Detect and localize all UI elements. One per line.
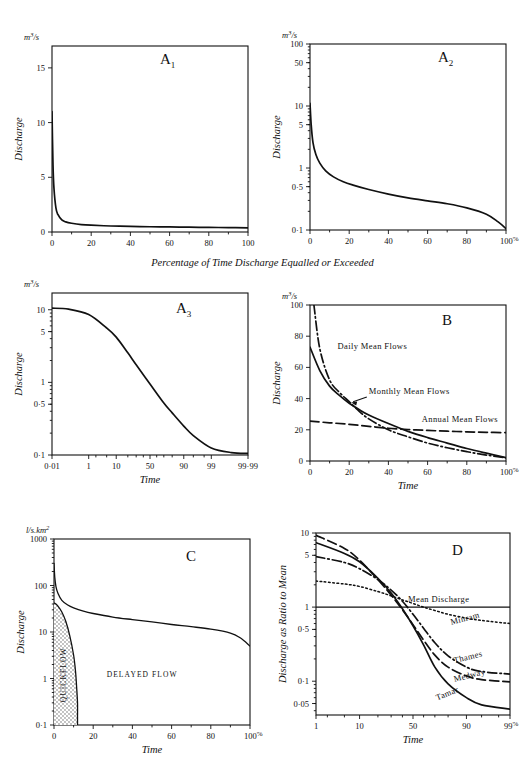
y-tick-label: 0·5 [298, 624, 309, 634]
y-tick-label: 50 [295, 58, 304, 68]
annotation-minram: Minram [449, 610, 480, 627]
monthly-mean-pointer [353, 397, 367, 402]
y-tick-label: 5 [299, 120, 303, 130]
y-tick-label: 0·05 [293, 699, 309, 709]
y-tick-label: 1000 [30, 534, 47, 544]
curve-tamar [316, 543, 510, 709]
y-axis-title: Discharge [271, 361, 282, 406]
panel-identifier: A3 [176, 300, 192, 319]
axis-units: m3/s [24, 31, 40, 43]
y-tick-label: 0·1 [34, 450, 45, 460]
panel-identifier: C [186, 548, 196, 564]
y-axis-title: Discharge [15, 610, 26, 655]
panel-a2: 0·10·5151050100020406080100%m3/sDischarg… [262, 22, 524, 272]
x-tick-label: 100 [242, 238, 255, 248]
y-axis-title: Discharge [271, 115, 282, 160]
plot-frame [310, 44, 506, 230]
x-tick-label: 1 [314, 721, 318, 731]
curve-flow-duration [52, 112, 248, 228]
plot-frame [52, 46, 248, 232]
panel-identifier: A2 [438, 49, 453, 68]
mean-discharge-label: Mean Discharge [408, 594, 469, 604]
shared-caption-text: Percentage of Time Discharge Equalled or… [151, 257, 374, 268]
y-tick-label: 100 [290, 300, 303, 310]
axis-units: m3/s [24, 278, 40, 290]
x-tick-label: 60 [167, 731, 176, 741]
y-tick-label: 10 [301, 528, 310, 538]
x-tick-label: 20 [345, 236, 354, 246]
y-tick-label: 0·1 [292, 225, 303, 235]
chart-a2: 0·10·5151050100020406080100%m3/sDischarg… [262, 22, 524, 272]
x-tick-label: 100% [244, 730, 263, 741]
y-tick-label: 10 [295, 101, 304, 111]
y-axis-title: Discharge [13, 117, 24, 162]
x-tick-label: 60 [165, 238, 174, 248]
plot-frame [52, 293, 248, 455]
x-axis-title: Time [140, 474, 161, 485]
panel-identifier: A1 [160, 51, 175, 70]
y-tick-label: 10 [37, 118, 46, 128]
x-tick-label: 50 [409, 721, 418, 731]
x-tick-label: 90 [462, 721, 471, 731]
x-tick-label: 1 [87, 461, 91, 471]
x-tick-label: 40 [384, 236, 393, 246]
x-tick-label: 80 [463, 236, 472, 246]
x-axis-title: Time [142, 744, 163, 755]
y-tick-label: 5 [41, 327, 45, 337]
plot-frame [54, 539, 250, 725]
x-tick-label: 20 [345, 467, 354, 477]
y-tick-label: 0·1 [298, 676, 309, 686]
curve-medway [316, 535, 510, 682]
x-tick-label: 60 [423, 236, 432, 246]
y-tick-label: 0·5 [292, 182, 303, 192]
y-tick-label: 1 [299, 163, 303, 173]
x-tick-label: 100% [500, 235, 519, 246]
y-tick-label: 20 [295, 425, 304, 435]
x-tick-label: 99 [207, 461, 216, 471]
x-tick-label: 40 [384, 467, 393, 477]
chart-d: 0·050·10·51510110509099%Discharge as Rat… [262, 505, 524, 767]
x-tick-label: 100% [500, 466, 519, 477]
shared-x-caption: Percentage of Time Discharge Equalled or… [0, 252, 525, 270]
figure-flow-duration-curves: 051015020406080100m3/sDischargeA1 0·10·5… [0, 0, 525, 777]
y-tick-label: 15 [37, 63, 46, 73]
x-tick-label: 40 [126, 238, 135, 248]
y-tick-label: 5 [41, 172, 45, 182]
x-tick-label: 10 [112, 461, 121, 471]
annotation-monthly-mean-flows: Monthly Mean Flows [369, 386, 450, 396]
x-tick-label: 80 [205, 238, 214, 248]
y-tick-label: 5 [305, 550, 309, 560]
chart-a1: 051015020406080100m3/sDischargeA1 [0, 22, 262, 272]
y-tick-label: 40 [295, 394, 304, 404]
x-tick-label: 10 [355, 721, 364, 731]
x-tick-label: 0 [308, 236, 312, 246]
x-tick-label: 0 [308, 467, 312, 477]
x-axis-title: Time [398, 480, 419, 491]
x-tick-label: 20 [87, 238, 96, 248]
panel-a3: 0·10·515100·0111050909999·99m3/sDischarg… [0, 283, 262, 495]
region-label-delayed-flow: DELAYED FLOW [107, 670, 178, 679]
y-axis-title: Discharge [13, 352, 24, 397]
curve-total-flow [54, 563, 250, 646]
plot-frame [310, 305, 506, 461]
panel-c: 0·11101001000020406080100%l/s.km2Dischar… [0, 505, 262, 767]
annotation-thames: Thames [453, 648, 484, 665]
y-tick-label: 80 [295, 331, 304, 341]
x-tick-label: 0 [50, 238, 54, 248]
y-tick-label: 0·1 [36, 720, 47, 730]
y-tick-label: 1 [43, 674, 47, 684]
annotation-annual-mean-flows: Annual Mean Flows [422, 414, 498, 424]
y-tick-label: 10 [39, 627, 48, 637]
x-tick-label: 99·99 [238, 461, 258, 471]
chart-a3: 0·10·515100·0111050909999·99m3/sDischarg… [0, 283, 262, 495]
y-tick-label: 0 [41, 227, 45, 237]
x-tick-label: 40 [128, 731, 137, 741]
y-tick-label: 1 [305, 602, 309, 612]
x-tick-label: 80 [463, 467, 472, 477]
chart-b: 020406080100020406080100%m3/sDischargeTi… [262, 283, 524, 495]
panel-a1: 051015020406080100m3/sDischargeA1 [0, 22, 262, 272]
curve-flow-duration [52, 308, 248, 453]
annotation-daily-mean-flows: Daily Mean Flows [337, 341, 407, 351]
chart-c: 0·11101001000020406080100%l/s.km2Dischar… [0, 505, 262, 767]
panel-identifier: D [452, 542, 463, 558]
